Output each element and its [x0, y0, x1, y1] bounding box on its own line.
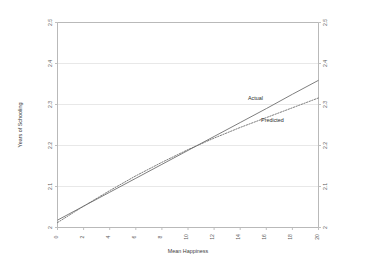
y-tick-label-left: 2.2 [47, 142, 53, 149]
y-axis-title: Years of Schooling [17, 103, 23, 148]
y-tick-label-left: 2.3 [47, 101, 53, 108]
x-tick-label: 20 [314, 234, 320, 240]
x-tick-label: 4 [105, 235, 111, 238]
y-tick-label-right: 2.5 [322, 19, 328, 26]
y-tick-label-right: 2.2 [322, 142, 328, 149]
x-tick-label: 16 [261, 234, 267, 240]
x-tick-label: 6 [131, 235, 137, 238]
y-tick-label-left: 2.1 [47, 183, 53, 190]
chart-canvas: 02468101214161820 22.12.22.32.42.5 22.12… [0, 0, 375, 265]
line-chart: 02468101214161820 22.12.22.32.42.5 22.12… [0, 0, 375, 265]
x-tick-label: 12 [209, 234, 215, 240]
series-label-actual: Actual [248, 95, 263, 101]
y-tick-label-right: 2.1 [322, 183, 328, 190]
y-tick-label-left: 2 [47, 226, 53, 229]
x-tick-label: 18 [287, 234, 293, 240]
x-tick-label: 8 [157, 235, 163, 238]
x-tick-label: 2 [79, 235, 85, 238]
y-tick-label-left: 2.4 [47, 60, 53, 67]
y-tick-label-right: 2.3 [322, 101, 328, 108]
x-tick-label: 10 [183, 234, 189, 240]
y-tick-label-right: 2 [322, 226, 328, 229]
y-tick-label-left: 2.5 [47, 19, 53, 26]
x-axis-title: Mean Happiness [168, 248, 209, 254]
series-label-predicted: Predicted [261, 117, 284, 123]
x-tick-label: 14 [235, 234, 241, 240]
x-tick-label: 0 [53, 235, 59, 238]
y-tick-label-right: 2.4 [322, 60, 328, 67]
